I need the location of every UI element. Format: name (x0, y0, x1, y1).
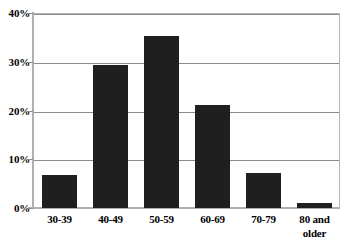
y-axis-tick-mark (28, 208, 33, 209)
x-axis-category-label: 60-69 (187, 212, 238, 226)
bar-slot (136, 13, 187, 208)
bar[interactable] (144, 36, 180, 208)
y-axis-tick-mark (28, 62, 33, 63)
x-axis-category-label: 80 andolder (289, 212, 340, 240)
y-axis-tick-label: 20% (2, 105, 30, 117)
x-axis-category-label: 40-49 (85, 212, 136, 226)
bar-chart: 0%10%20%30%40% 30-3940-4950-5960-6970-79… (0, 0, 348, 244)
y-axis-tick-label: 30% (2, 56, 30, 68)
x-axis-category-label: 70-79 (238, 212, 289, 226)
x-axis-category-label: 30-39 (34, 212, 85, 226)
x-axis-category-label-line: 80 and (289, 212, 340, 226)
y-axis-tick-label: 0% (2, 202, 30, 214)
bar-slot (238, 13, 289, 208)
bar-slot (85, 13, 136, 208)
y-axis-tick-label: 10% (2, 153, 30, 165)
bar[interactable] (195, 105, 231, 208)
x-axis-category-label-line: older (289, 226, 340, 240)
bars-layer (34, 13, 340, 208)
x-axis-category-labels: 30-3940-4950-5960-6970-7980 andolder (34, 212, 340, 244)
x-axis-category-label: 50-59 (136, 212, 187, 226)
y-axis-tick-mark (28, 13, 33, 14)
bar-slot (34, 13, 85, 208)
x-axis-category-label-line: 60-69 (187, 212, 238, 226)
bar[interactable] (93, 65, 129, 208)
y-axis-tick-mark (28, 159, 33, 160)
bar[interactable] (42, 175, 78, 208)
bar-slot (289, 13, 340, 208)
x-axis-category-label-line: 30-39 (34, 212, 85, 226)
x-axis-category-label-line: 50-59 (136, 212, 187, 226)
bar[interactable] (297, 203, 333, 208)
y-axis-tick-labels: 0%10%20%30%40% (0, 0, 30, 244)
y-axis-tick-mark (28, 111, 33, 112)
y-axis-tick-label: 40% (2, 7, 30, 19)
bar-slot (187, 13, 238, 208)
x-axis-category-label-line: 40-49 (85, 212, 136, 226)
x-axis-category-label-line: 70-79 (238, 212, 289, 226)
bar[interactable] (246, 173, 282, 208)
